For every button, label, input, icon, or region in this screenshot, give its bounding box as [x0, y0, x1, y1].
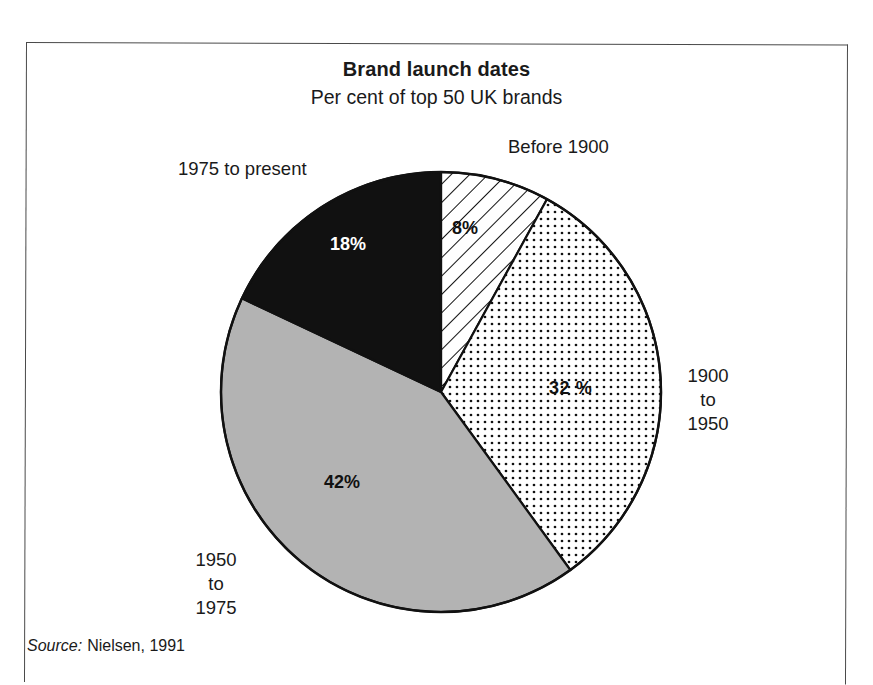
slice-value-before-1900: 8%: [452, 218, 478, 239]
source-text: Nielsen, 1991: [87, 637, 185, 654]
pie-slice-group: [221, 172, 661, 612]
slice-value-1900-1950: 32 %: [549, 378, 592, 399]
slice-label-1900-1950: 1900 to 1950: [666, 364, 750, 436]
source-label: Source:: [27, 637, 82, 654]
source-note: Source:Nielsen, 1991: [27, 636, 185, 656]
slice-value-1975-present: 18%: [330, 234, 366, 255]
slice-label-1975-present: 1975 to present: [178, 157, 307, 181]
slice-label-before-1900: Before 1900: [508, 135, 609, 159]
slice-label-1950-1975: 1950 to 1975: [160, 548, 272, 620]
slice-value-1950-1975: 42%: [324, 472, 360, 493]
